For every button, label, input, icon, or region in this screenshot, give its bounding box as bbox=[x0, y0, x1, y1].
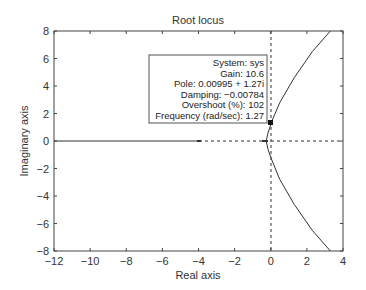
y-tick-label: 8 bbox=[43, 25, 49, 37]
y-tick-label: −2 bbox=[36, 163, 49, 175]
root-locus-chart: −12−10−8−6−4−202486420−2−4−6−8 System: s… bbox=[0, 0, 366, 290]
y-tick-label: 0 bbox=[43, 135, 49, 147]
x-tick-label: 4 bbox=[340, 255, 346, 267]
x-tick-label: −2 bbox=[228, 255, 241, 267]
x-tick-label: −10 bbox=[81, 255, 100, 267]
datatip-line: Gain: 10.6 bbox=[220, 68, 264, 79]
y-tick-label: −8 bbox=[36, 245, 49, 257]
y-tick-label: −6 bbox=[36, 218, 49, 230]
selected-point-marker[interactable] bbox=[268, 120, 273, 125]
datatip-line: Frequency (rad/sec): 1.27 bbox=[155, 110, 264, 121]
chart-title: Root locus bbox=[172, 14, 224, 26]
y-tick-label: 2 bbox=[43, 108, 49, 120]
y-tick-label: 4 bbox=[43, 80, 49, 92]
datatip-line: Overshoot (%): 102 bbox=[182, 99, 264, 110]
y-axis-label: Imaginary axis bbox=[18, 105, 30, 176]
x-tick-label: −6 bbox=[156, 255, 169, 267]
pole-marker bbox=[197, 140, 201, 142]
y-tick-label: 6 bbox=[43, 53, 49, 65]
x-tick-label: 0 bbox=[268, 255, 274, 267]
x-tick-label: −8 bbox=[120, 255, 133, 267]
x-tick-label: 2 bbox=[304, 255, 310, 267]
datatip-line: Pole: 0.00995 + 1.27i bbox=[174, 78, 264, 89]
y-tick-label: −4 bbox=[36, 190, 49, 202]
datatip-line: Damping: −0.00784 bbox=[181, 89, 264, 100]
x-tick-label: −4 bbox=[192, 255, 205, 267]
x-axis-label: Real axis bbox=[175, 269, 221, 281]
breakaway-marker bbox=[262, 140, 268, 142]
datatip-line: System: sys bbox=[213, 57, 264, 68]
